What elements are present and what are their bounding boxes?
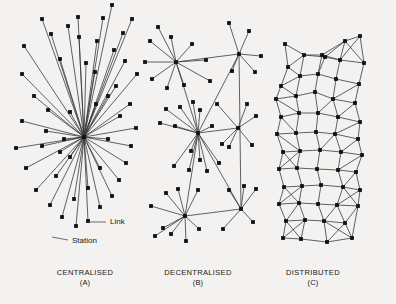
link-edge (337, 205, 345, 223)
station-node (204, 58, 208, 62)
station-node (169, 35, 173, 39)
link-edge (320, 150, 341, 152)
station-node (84, 61, 88, 65)
station-node (183, 214, 187, 218)
station-node (277, 202, 281, 206)
station-node (58, 57, 62, 61)
station-node (358, 188, 362, 192)
link-edge (152, 62, 176, 79)
link-edge (279, 203, 299, 204)
link-edge (281, 113, 299, 117)
caption-distributed-title: DISTRIBUTED (286, 268, 340, 277)
station-node (360, 153, 364, 157)
link-edge (343, 187, 360, 190)
station-node (86, 186, 90, 190)
station-node (338, 58, 342, 62)
station-node (197, 227, 201, 231)
station-node (281, 150, 285, 154)
link-edge (318, 74, 336, 79)
station-node (335, 203, 339, 207)
link-edge (175, 126, 198, 133)
link-edge (316, 132, 335, 134)
link-edge (320, 134, 335, 150)
link-edge (316, 113, 318, 132)
link-edge (171, 216, 185, 234)
station-node (294, 131, 298, 135)
station-node (331, 97, 335, 101)
caption-decentralised-title: DECENTRALISED (164, 268, 231, 277)
station-node (182, 83, 186, 87)
link-edge (296, 96, 299, 113)
station-node (129, 144, 133, 148)
link-edge (176, 44, 192, 62)
station-node (106, 94, 110, 98)
station-node (110, 194, 114, 198)
station-node (356, 204, 360, 208)
station-node (196, 131, 200, 135)
link-edge (356, 155, 362, 172)
station-node (295, 166, 299, 170)
link-edge (277, 117, 281, 134)
caption-distributed-letter: (C) (286, 278, 340, 288)
station-node (250, 143, 254, 147)
link-edge (302, 185, 321, 186)
link-edge (317, 169, 338, 170)
station-node (300, 184, 304, 188)
station-node (294, 94, 298, 98)
link-edge (341, 152, 362, 155)
link-edge (318, 113, 338, 117)
caption-centralised-title: CENTRALISED (57, 268, 113, 277)
station-node (158, 121, 162, 125)
link-edge (185, 216, 199, 229)
caption-centralised-letter: (A) (57, 278, 113, 288)
station-node (124, 161, 128, 165)
station-node (156, 25, 160, 29)
link-edge (333, 99, 355, 103)
link-edge (335, 134, 358, 139)
link-edge (316, 132, 320, 150)
link-edge (167, 62, 176, 88)
station-node (164, 107, 168, 111)
station-node (66, 24, 70, 28)
station-node (354, 170, 358, 174)
link-edge (321, 185, 343, 187)
station-node (94, 102, 98, 106)
station-node (282, 185, 286, 189)
link-edge (343, 187, 358, 206)
link-edge (300, 150, 320, 151)
link-edge (185, 216, 186, 241)
station-node (173, 124, 177, 128)
link-edge (324, 205, 337, 221)
station-node (148, 39, 152, 43)
station-node (190, 42, 194, 46)
station-node (14, 146, 18, 150)
caption-centralised: CENTRALISED (A) (57, 268, 113, 288)
annotation-station-label: Station (72, 236, 97, 245)
station-node (254, 114, 258, 118)
station-node (123, 59, 127, 63)
link-edge (24, 46, 84, 137)
station-node (114, 84, 118, 88)
station-node (315, 167, 319, 171)
station-node (279, 115, 283, 119)
station-node (93, 70, 97, 74)
caption-decentralised-letter: (B) (164, 278, 231, 288)
link-edge (296, 132, 316, 133)
link-edge (296, 92, 315, 96)
station-node (161, 226, 165, 230)
station-node (20, 72, 24, 76)
backbone-edge (198, 128, 238, 133)
link-edge (338, 170, 356, 172)
station-node (54, 174, 58, 178)
station-node (196, 188, 200, 192)
station-node (77, 35, 81, 39)
link-edge (335, 117, 338, 134)
link-edge (229, 23, 239, 54)
link-edge (356, 172, 360, 190)
link-edge (335, 134, 341, 152)
link-edge (315, 92, 318, 113)
station-node (253, 70, 257, 74)
network-topology-figure (0, 0, 396, 304)
station-node (40, 144, 44, 148)
link-edge (238, 116, 256, 128)
